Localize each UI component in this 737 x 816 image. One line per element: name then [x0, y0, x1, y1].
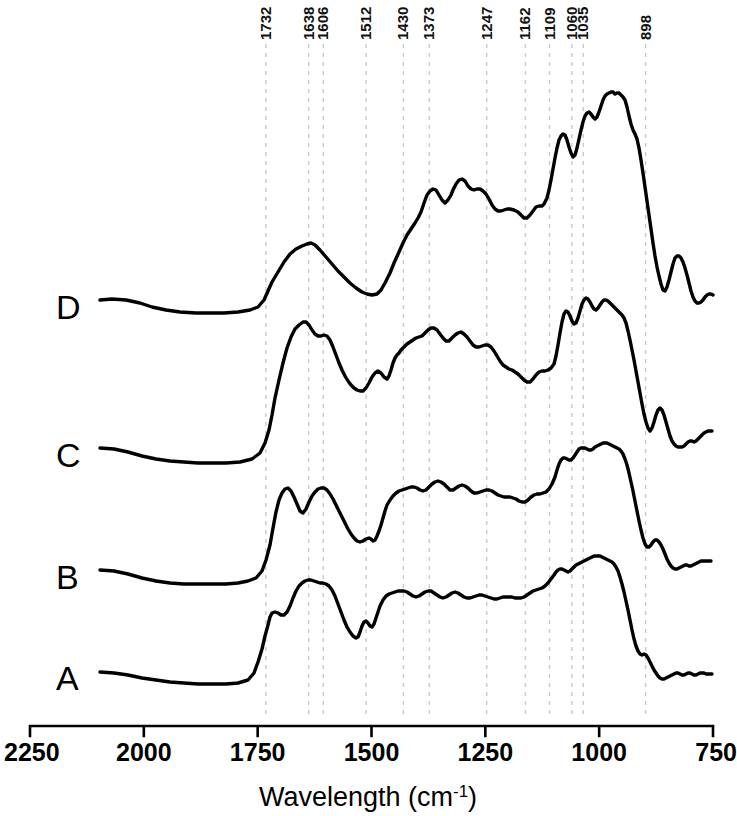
x-tick-label-1500: 1500 — [344, 738, 400, 766]
peak-label-898: 898 — [637, 15, 654, 40]
svg-text:Wavelength (cm-1): Wavelength (cm-1) — [259, 782, 477, 812]
peak-guide-lines — [266, 44, 646, 718]
x-tick-label-2250: 2250 — [4, 738, 60, 766]
x-axis: 225020001750150012501000750 — [4, 726, 737, 766]
curve-label-C: C — [56, 436, 81, 474]
x-tick-label-1250: 1250 — [458, 738, 514, 766]
x-tick-label-750: 750 — [695, 738, 737, 766]
axis-title-close-paren: ) — [468, 782, 477, 812]
x-axis-tick-labels: 225020001750150012501000750 — [4, 738, 737, 766]
spectrum-curve-A — [100, 556, 712, 684]
peak-annotation-labels: 1732163816061512143013731247116211091060… — [257, 7, 654, 40]
peak-label-1162: 1162 — [516, 7, 533, 40]
curve-label-D: D — [56, 288, 81, 326]
peak-label-1430: 1430 — [394, 7, 411, 40]
peak-label-1109: 1109 — [541, 7, 558, 40]
spectrum-curve-C — [100, 298, 712, 463]
x-axis-line — [30, 726, 713, 736]
x-axis-title: Wavelength (cm-1) — [259, 782, 477, 812]
peak-label-1247: 1247 — [478, 7, 495, 40]
peak-label-1373: 1373 — [420, 7, 437, 40]
curve-name-labels: DCBA — [56, 288, 81, 697]
x-tick-label-1000: 1000 — [571, 738, 627, 766]
peak-label-1732: 1732 — [257, 7, 274, 40]
curve-label-A: A — [56, 659, 79, 697]
spectra-plot: 1732163816061512143013731247116211091060… — [0, 0, 737, 816]
spectrum-curves — [100, 92, 713, 684]
curve-label-B: B — [56, 558, 79, 596]
peak-label-1512: 1512 — [357, 7, 374, 40]
axis-title-main: Wavelength (cm — [259, 782, 453, 812]
x-tick-label-1750: 1750 — [230, 738, 286, 766]
x-tick-label-2000: 2000 — [116, 738, 172, 766]
spectrum-curve-D — [100, 92, 713, 313]
peak-label-1035: 1035 — [574, 7, 591, 40]
axis-title-superscript: -1 — [453, 782, 468, 801]
peak-label-1606: 1606 — [314, 7, 331, 40]
ftir-spectra-figure: 1732163816061512143013731247116211091060… — [0, 0, 737, 816]
